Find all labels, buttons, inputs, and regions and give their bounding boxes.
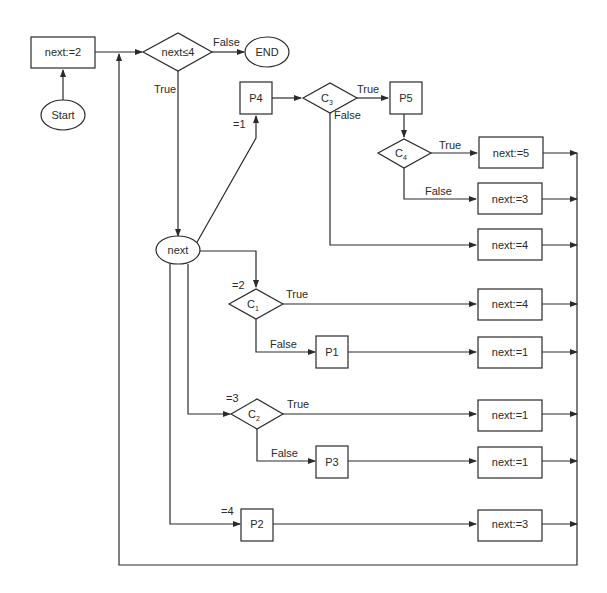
node-set-next-3a: next:=3 bbox=[478, 183, 542, 214]
node-set-next-3b-label: next:=3 bbox=[492, 518, 528, 530]
node-start: Start bbox=[41, 100, 85, 130]
node-c1: C1 bbox=[229, 289, 283, 319]
node-set-next-1b: next:=1 bbox=[478, 400, 542, 431]
label-c3-true: True bbox=[357, 83, 379, 95]
node-set-next-5: next:=5 bbox=[479, 137, 543, 168]
label-c3-false: False bbox=[334, 109, 361, 121]
edge-next-c1 bbox=[200, 251, 256, 287]
node-p2-label: P2 bbox=[250, 518, 263, 530]
node-p5: P5 bbox=[390, 82, 422, 114]
label-c2-false: False bbox=[271, 447, 298, 459]
node-p4: P4 bbox=[240, 82, 272, 114]
label-c1-true: True bbox=[286, 288, 308, 300]
label-c4-true: True bbox=[439, 139, 461, 151]
node-set-next-1a-label: next:=1 bbox=[492, 346, 528, 358]
node-p1-label: P1 bbox=[325, 346, 338, 358]
node-c4: C4 bbox=[378, 139, 431, 168]
node-start-label: Start bbox=[51, 109, 74, 121]
node-p3: P3 bbox=[316, 446, 348, 478]
node-set-next-1a: next:=1 bbox=[478, 337, 542, 368]
label-case-4: =4 bbox=[221, 505, 234, 517]
node-set-next-3a-label: next:=3 bbox=[492, 193, 528, 205]
node-cond-main-label: next≤4 bbox=[162, 46, 195, 58]
node-set-next-3b: next:=3 bbox=[478, 510, 542, 541]
node-p1: P1 bbox=[316, 336, 348, 368]
node-set-next-4b: next:=4 bbox=[478, 289, 542, 320]
edge-c3-set4a bbox=[330, 113, 476, 245]
label-c1-false: False bbox=[270, 338, 297, 350]
edge-next-p4 bbox=[196, 116, 256, 244]
node-c2: C2 bbox=[231, 399, 283, 429]
node-next-switch-label: next bbox=[168, 244, 189, 256]
node-cond-main: next≤4 bbox=[143, 33, 212, 71]
node-set-next-4a: next:=4 bbox=[478, 229, 542, 260]
node-set-next-5-label: next:=5 bbox=[493, 147, 529, 159]
node-p5-label: P5 bbox=[399, 92, 412, 104]
node-set-next-4b-label: next:=4 bbox=[492, 298, 528, 310]
node-init-label: next:=2 bbox=[45, 46, 81, 58]
node-next-switch: next bbox=[156, 236, 200, 264]
label-case-1: =1 bbox=[233, 118, 246, 130]
node-set-next-1c-label: next:=1 bbox=[492, 456, 528, 468]
node-p2: P2 bbox=[241, 509, 273, 541]
node-p3-label: P3 bbox=[325, 456, 338, 468]
label-case-3: =3 bbox=[226, 392, 239, 404]
label-c4-false: False bbox=[425, 185, 452, 197]
node-set-next-1b-label: next:=1 bbox=[492, 409, 528, 421]
node-end-label: END bbox=[255, 46, 278, 58]
node-p4-label: P4 bbox=[249, 92, 262, 104]
node-set-next-4a-label: next:=4 bbox=[492, 239, 528, 251]
edge-next-c2 bbox=[188, 264, 230, 414]
label-case-2: =2 bbox=[232, 279, 245, 291]
node-init: next:=2 bbox=[31, 37, 95, 68]
label-main-true: True bbox=[154, 83, 176, 95]
label-c2-true: True bbox=[287, 398, 309, 410]
flowchart: next:=2 Start next≤4 END next P4 C3 P5 C… bbox=[0, 0, 607, 593]
label-main-false: False bbox=[213, 36, 240, 48]
node-set-next-1c: next:=1 bbox=[478, 447, 542, 478]
node-end: END bbox=[245, 37, 289, 67]
